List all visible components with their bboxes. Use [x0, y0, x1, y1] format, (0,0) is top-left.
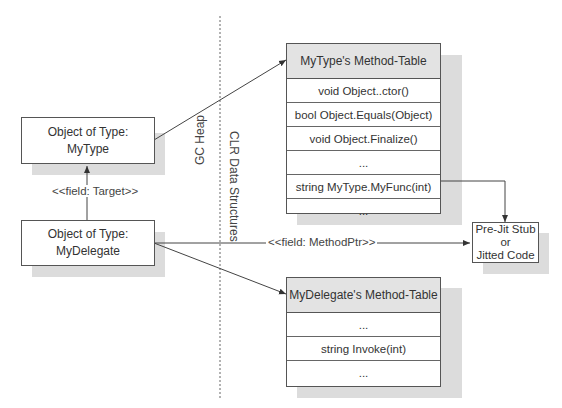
mt-row: string Invoke(int) [287, 337, 440, 361]
method-ptr-label: <<field: MethodPtr>> [266, 236, 377, 248]
delegate-object-line1: Object of Type: [48, 226, 129, 243]
delegate-mt-title: MyDelegate's Method-Table [287, 278, 440, 313]
mytype-object-line2: MyType [48, 141, 129, 158]
connectors [0, 0, 562, 408]
gc-heap-label: GC Heap [193, 115, 207, 165]
mt-row: void Object.Finalize() [287, 127, 440, 151]
mt-row: ... [287, 361, 440, 384]
code-box: Pre-Jit Stub or Jitted Code [472, 222, 539, 263]
code-box-line3: Jitted Code [475, 249, 535, 262]
code-box-line1: Pre-Jit Stub [475, 223, 535, 236]
mytype-method-table: MyType's Method-Table void Object..ctor(… [286, 43, 441, 214]
mt-row: ... [287, 151, 440, 175]
mytype-object-line1: Object of Type: [48, 124, 129, 141]
delegate-method-table: MyDelegate's Method-Table ... string Inv… [286, 277, 441, 387]
delegate-object-box: Object of Type: MyDelegate [21, 220, 155, 266]
clr-data-structures-label: CLR Data Structures [227, 131, 241, 242]
code-box-line2: or [475, 236, 535, 249]
mt-row: ... [287, 313, 440, 337]
mt-row: void Object..ctor() [287, 79, 440, 103]
mytype-mt-title: MyType's Method-Table [287, 44, 440, 79]
mytype-object-box: Object of Type: MyType [21, 117, 155, 164]
target-field-label: <<field: Target>> [50, 185, 140, 197]
mt-row: ... [287, 199, 440, 222]
mt-row-myfunc: string MyType.MyFunc(int) [287, 175, 440, 199]
mt-row: bool Object.Equals(Object) [287, 103, 440, 127]
delegate-object-line2: MyDelegate [48, 243, 129, 260]
